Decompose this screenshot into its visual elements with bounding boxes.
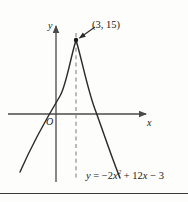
equation-eq: = −2 [91, 170, 113, 181]
vertex-point [74, 38, 78, 42]
parabola-figure: y x O (3, 15) y = −2x2 + 12x − 3 [0, 0, 188, 202]
bottom-divider-rule [0, 193, 188, 194]
equation-end: − 3 [148, 170, 164, 181]
equation-tail: + 12 [121, 170, 143, 181]
parabola-curve [20, 40, 120, 178]
x-axis-label: x [147, 118, 151, 128]
y-axis-label: y [48, 21, 52, 31]
vertex-coordinate-label: (3, 15) [92, 20, 120, 31]
equation-caption: y = −2x2 + 12x − 3 [86, 169, 164, 181]
origin-label: O [46, 117, 53, 127]
